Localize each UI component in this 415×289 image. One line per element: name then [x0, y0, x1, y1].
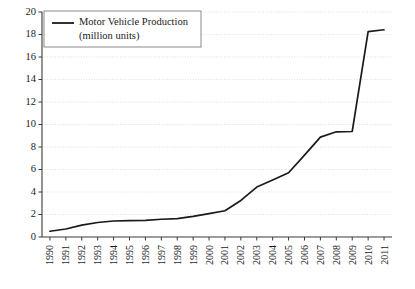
- x-tick-label: 2007: [315, 245, 326, 265]
- x-tick-label: 1999: [188, 245, 199, 265]
- y-tick-label: 2: [31, 208, 36, 219]
- y-axis-ticks-group: 02468101214161820: [26, 6, 43, 242]
- x-tick-label: 1991: [60, 245, 71, 265]
- x-tick-label: 2008: [331, 245, 342, 265]
- x-tick-label: 2001: [219, 245, 230, 265]
- y-tick-label: 20: [26, 6, 37, 17]
- x-tick-label: 2000: [204, 245, 215, 265]
- x-tick-label: 2010: [363, 245, 374, 265]
- line-chart: 02468101214161820 1990199119921993199419…: [0, 0, 415, 289]
- x-tick-label: 2003: [251, 245, 262, 265]
- x-tick-label: 1998: [172, 245, 183, 265]
- y-tick-label: 16: [26, 51, 37, 62]
- x-tick-label: 1996: [140, 245, 151, 265]
- y-tick-label: 18: [26, 28, 37, 39]
- x-tick-label: 1994: [108, 245, 119, 265]
- chart-container: 02468101214161820 1990199119921993199419…: [0, 0, 415, 289]
- x-tick-label: 2002: [235, 245, 246, 265]
- x-tick-label: 2011: [379, 245, 390, 265]
- x-tick-label: 2006: [299, 245, 310, 265]
- x-tick-label: 2004: [267, 245, 278, 265]
- x-tick-label: 2009: [347, 245, 358, 265]
- y-tick-label: 6: [31, 163, 36, 174]
- y-tick-label: 0: [31, 231, 36, 242]
- y-tick-label: 10: [26, 118, 37, 129]
- x-tick-label: 1992: [76, 245, 87, 265]
- legend-label-line1: Motor Vehicle Production: [79, 16, 189, 27]
- legend-box: Motor Vehicle Production(million units): [44, 11, 201, 47]
- y-tick-label: 8: [31, 141, 36, 152]
- x-tick-label: 1990: [44, 245, 55, 265]
- legend-label-line2: (million units): [79, 30, 140, 42]
- data-series-group: [50, 30, 384, 231]
- series-line-motor-vehicle-production: [50, 30, 384, 231]
- x-tick-label: 2005: [283, 245, 294, 265]
- x-axis-ticks-group: 1990199119921993199419951996199719981999…: [44, 237, 389, 265]
- x-tick-label: 1995: [124, 245, 135, 265]
- y-tick-label: 4: [31, 186, 37, 197]
- x-tick-label: 1993: [92, 245, 103, 265]
- y-tick-label: 12: [26, 96, 37, 107]
- x-tick-label: 1997: [156, 245, 167, 265]
- y-tick-label: 14: [26, 73, 37, 84]
